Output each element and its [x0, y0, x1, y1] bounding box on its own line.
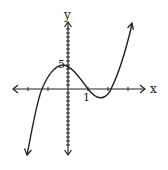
x-tick-label-1: 1 — [83, 91, 90, 104]
x-axis — [13, 85, 145, 93]
x-axis-label: x — [150, 82, 157, 96]
y-axis-label: y — [63, 8, 71, 22]
cubic-function-graph: y x 5 1 — [0, 0, 168, 170]
